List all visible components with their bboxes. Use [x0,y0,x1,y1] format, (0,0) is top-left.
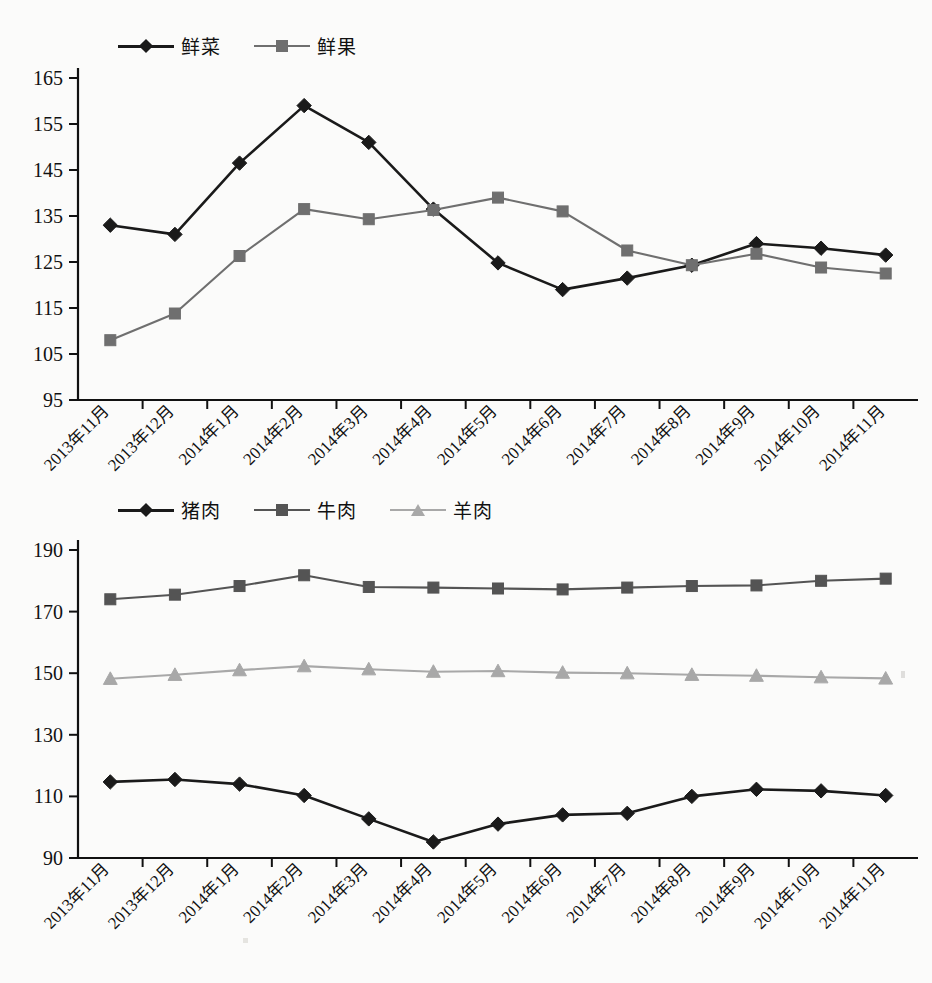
square-marker-icon [276,504,288,516]
chart-fresh-produce-plot: 951051151251351451551652013年11月2013年12月2… [0,0,932,490]
legend-swatch-diamond [118,502,174,518]
legend-entry-鲜果[interactable]: 鲜果 [254,32,356,59]
svg-text:2014年1月: 2014年1月 [175,401,243,469]
legend-entry-猪肉[interactable]: 猪肉 [118,496,220,523]
square-marker-icon [276,40,288,52]
svg-text:145: 145 [33,159,63,181]
svg-text:2014年5月: 2014年5月 [433,859,501,927]
svg-text:2014年4月: 2014年4月 [369,859,437,927]
svg-text:2013年12月: 2013年12月 [104,859,178,933]
svg-text:2014年2月: 2014年2月 [239,859,307,927]
svg-text:2014年3月: 2014年3月 [304,859,372,927]
svg-text:155: 155 [33,113,63,135]
svg-text:2013年11月: 2013年11月 [40,401,113,474]
legend-fresh-produce: 鲜菜鲜果 [118,32,356,59]
svg-text:2014年5月: 2014年5月 [433,401,501,469]
svg-text:2014年8月: 2014年8月 [627,401,695,469]
svg-text:2014年6月: 2014年6月 [498,401,566,469]
svg-text:2013年11月: 2013年11月 [40,859,113,932]
diamond-marker-icon [139,502,153,516]
svg-text:2013年12月: 2013年12月 [104,401,178,475]
svg-text:2014年1月: 2014年1月 [175,859,243,927]
chart-meat: 猪肉牛肉羊肉 901101301501701902013年11月2013年12月… [0,478,932,983]
svg-text:90: 90 [43,847,63,869]
svg-text:115: 115 [34,297,63,319]
svg-text:2014年9月: 2014年9月 [692,859,760,927]
legend-label: 鲜菜 [181,32,220,59]
svg-text:170: 170 [33,601,63,623]
legend-swatch-diamond [118,38,174,54]
svg-text:130: 130 [33,724,63,746]
diamond-marker-icon [139,38,153,52]
legend-swatch-square [254,38,310,54]
chart-fresh-produce: 鲜菜鲜果 951051151251351451551652013年11月2013… [0,0,932,490]
legend-swatch-triangle [390,502,446,518]
svg-text:2014年3月: 2014年3月 [304,401,372,469]
svg-text:2014年11月: 2014年11月 [815,401,888,474]
legend-entry-羊肉[interactable]: 羊肉 [390,496,492,523]
triangle-marker-icon [411,504,425,516]
svg-text:190: 190 [33,539,63,561]
scan-speck [243,938,248,943]
legend-entry-牛肉[interactable]: 牛肉 [254,496,356,523]
svg-text:2014年2月: 2014年2月 [239,401,307,469]
svg-text:165: 165 [33,67,63,89]
legend-entry-鲜菜[interactable]: 鲜菜 [118,32,220,59]
svg-text:2014年4月: 2014年4月 [369,401,437,469]
svg-text:2014年8月: 2014年8月 [627,859,695,927]
svg-text:2014年10月: 2014年10月 [750,401,824,475]
charts-page: 鲜菜鲜果 951051151251351451551652013年11月2013… [0,0,932,983]
svg-text:110: 110 [34,785,63,807]
legend-label: 猪肉 [181,496,220,523]
scan-speck [901,671,905,678]
legend-swatch-square [254,502,310,518]
svg-text:2014年10月: 2014年10月 [750,859,824,933]
legend-label: 牛肉 [317,496,356,523]
svg-text:2014年6月: 2014年6月 [498,859,566,927]
legend-meat: 猪肉牛肉羊肉 [118,496,492,523]
svg-text:2014年9月: 2014年9月 [692,401,760,469]
svg-text:150: 150 [33,662,63,684]
svg-text:125: 125 [33,251,63,273]
legend-label: 羊肉 [453,496,492,523]
svg-text:2014年7月: 2014年7月 [563,859,631,927]
svg-text:135: 135 [33,205,63,227]
svg-text:2014年11月: 2014年11月 [815,859,888,932]
legend-label: 鲜果 [317,32,356,59]
svg-text:95: 95 [43,389,63,411]
chart-meat-plot: 901101301501701902013年11月2013年12月2014年1月… [0,478,932,983]
svg-text:105: 105 [33,343,63,365]
svg-text:2014年7月: 2014年7月 [563,401,631,469]
